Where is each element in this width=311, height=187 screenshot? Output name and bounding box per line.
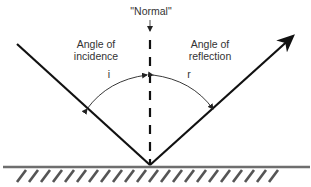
incident-ray	[17, 44, 150, 165]
angle-i-label: i	[104, 68, 114, 80]
incidence-label-line1: Angle of	[66, 38, 126, 50]
reflection-label-line1: Angle of	[180, 38, 240, 50]
surface-hatching	[17, 170, 278, 182]
angle-of-reflection-label: Angle of reflection	[180, 38, 240, 62]
reflection-label-line2: reflection	[180, 50, 240, 62]
angle-r-label: r	[184, 68, 194, 80]
normal-label: "Normal"	[126, 5, 176, 17]
reflection-angle-arc	[153, 75, 213, 109]
incidence-angle-arc	[87, 75, 147, 109]
incidence-label-line2: incidence	[66, 50, 126, 62]
angle-of-incidence-label: Angle of incidence	[66, 38, 126, 62]
reflection-diagram	[0, 0, 311, 187]
